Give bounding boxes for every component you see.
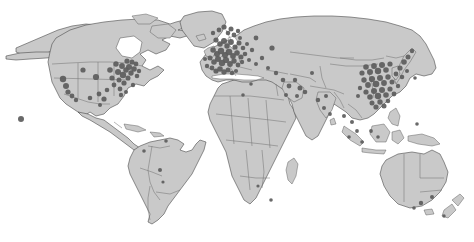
map-marker [269, 198, 273, 202]
map-marker [18, 116, 24, 122]
map-marker [303, 90, 308, 95]
map-marker [376, 135, 380, 139]
map-marker [419, 201, 423, 205]
map-marker [241, 46, 246, 51]
map-marker [238, 36, 242, 40]
map-marker [371, 63, 377, 69]
map-marker [124, 90, 128, 94]
map-marker [396, 84, 400, 88]
map-marker [217, 28, 222, 33]
map-marker [74, 98, 78, 102]
map-marker [363, 89, 368, 94]
map-marker [316, 98, 320, 102]
map-marker [221, 24, 226, 29]
map-marker [363, 64, 369, 70]
map-marker [224, 43, 229, 48]
map-marker [126, 64, 132, 70]
map-marker [405, 69, 409, 73]
map-marker [254, 36, 259, 41]
map-marker [118, 87, 123, 92]
map-marker [379, 87, 385, 93]
map-marker [358, 86, 362, 90]
map-marker [120, 72, 126, 78]
map-marker [284, 93, 288, 97]
map-marker [387, 86, 392, 91]
map-marker [241, 93, 245, 97]
map-marker [430, 195, 434, 199]
map-marker [131, 66, 137, 72]
map-marker [322, 106, 326, 110]
map-marker [70, 94, 75, 99]
map-marker [356, 94, 360, 98]
map-marker [205, 64, 209, 68]
world-map-figure [0, 0, 474, 242]
world-map-svg [0, 0, 474, 242]
map-marker [137, 69, 141, 73]
map-marker [234, 50, 240, 56]
map-marker [370, 101, 375, 106]
map-marker [412, 206, 416, 210]
map-marker [386, 99, 391, 104]
map-marker [373, 104, 378, 109]
map-marker [406, 55, 411, 60]
map-marker [400, 75, 405, 80]
map-marker [249, 82, 253, 86]
map-marker [240, 60, 244, 64]
map-marker [390, 80, 395, 85]
map-marker [254, 62, 258, 66]
map-marker [371, 88, 377, 94]
map-marker [295, 94, 299, 98]
map-marker [237, 41, 242, 46]
map-marker [401, 59, 407, 65]
map-marker [210, 66, 215, 71]
map-marker [377, 99, 382, 104]
map-marker [387, 61, 392, 66]
map-marker [382, 104, 387, 109]
map-marker [221, 38, 227, 44]
map-marker [324, 94, 328, 98]
map-marker [369, 76, 375, 82]
map-marker [392, 92, 397, 97]
map-marker [377, 75, 383, 81]
map-marker [383, 67, 389, 73]
map-marker [375, 68, 381, 74]
map-marker [234, 69, 238, 73]
map-marker [260, 56, 264, 60]
map-marker [134, 62, 139, 67]
map-marker [350, 120, 354, 124]
map-marker [342, 114, 346, 118]
map-marker [98, 103, 102, 107]
map-marker [281, 78, 286, 83]
map-marker [360, 140, 364, 144]
map-marker [113, 61, 118, 66]
map-marker [93, 74, 99, 80]
map-marker [101, 96, 106, 101]
map-marker [112, 83, 117, 88]
map-marker [355, 129, 359, 133]
map-marker [164, 139, 168, 143]
map-marker [394, 72, 399, 77]
map-marker [410, 49, 414, 53]
map-marker [269, 45, 274, 50]
map-marker [293, 78, 297, 82]
map-marker [310, 71, 314, 75]
map-marker [97, 92, 102, 97]
map-marker [105, 88, 110, 93]
map-marker [287, 84, 292, 89]
map-marker [243, 52, 248, 57]
map-marker [228, 39, 234, 45]
map-marker [226, 31, 231, 36]
map-marker [239, 55, 244, 60]
map-marker [208, 56, 213, 61]
map-marker [88, 96, 93, 101]
map-marker [60, 76, 66, 82]
map-marker [80, 67, 85, 72]
map-marker [231, 58, 236, 63]
map-marker [415, 122, 419, 126]
map-marker [379, 62, 385, 68]
map-marker [328, 112, 332, 116]
map-marker [347, 135, 351, 139]
map-marker [213, 37, 218, 42]
map-marker [236, 63, 241, 68]
map-marker [63, 83, 69, 89]
